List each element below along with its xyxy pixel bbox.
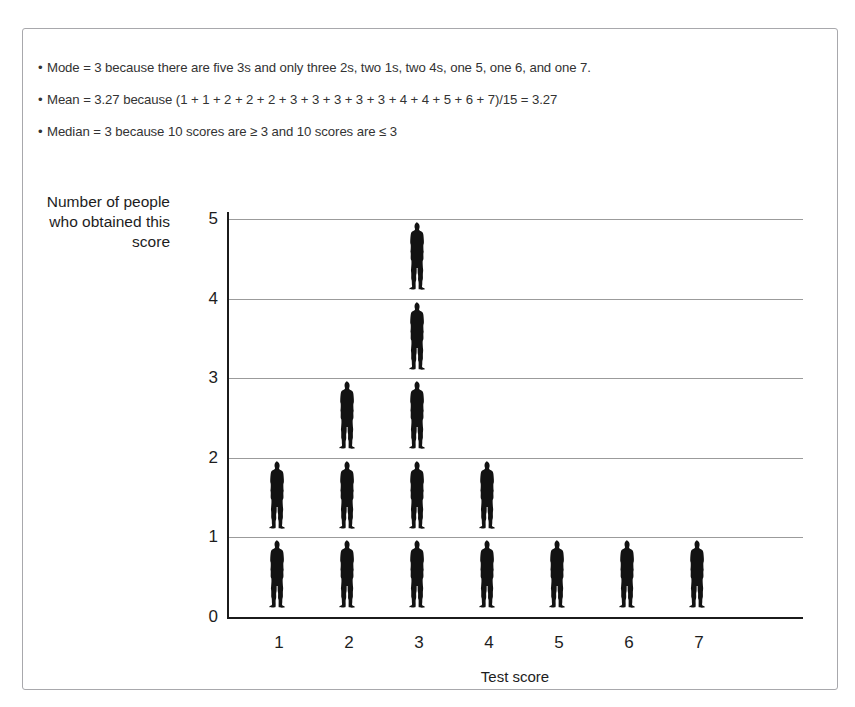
person-icon [477,460,501,534]
x-axis-spine [227,617,803,619]
x-tick-label-3: 3 [399,634,439,651]
person-icon [337,460,361,534]
x-tick-label-2: 2 [329,634,369,651]
person-icon [687,539,711,613]
person-icon [267,539,291,613]
person-icon [617,539,641,613]
gridline-3 [229,378,803,379]
x-tick-label-5: 5 [539,634,579,651]
y-tick-label-1: 1 [196,528,218,545]
y-axis-tick-labels: 012345 [190,0,218,707]
gridline-2 [229,458,803,459]
person-icon [267,460,291,534]
person-icon [547,539,571,613]
y-axis-title: Number of people who obtained this score [18,192,170,252]
person-icon [477,539,501,613]
y-tick-label-4: 4 [196,290,218,307]
pictogram-chart: Number of people who obtained this score… [0,0,855,707]
gridline-4 [229,299,803,300]
x-tick-label-7: 7 [679,634,719,651]
x-tick-label-4: 4 [469,634,509,651]
person-icon [337,380,361,454]
gridline-5 [229,219,803,220]
x-axis-title: Test score [227,668,803,685]
person-icon [337,539,361,613]
y-tick-label-3: 3 [196,369,218,386]
person-icon [407,301,431,375]
gridline-1 [229,537,803,538]
x-tick-label-6: 6 [609,634,649,651]
y-tick-label-2: 2 [196,449,218,466]
x-tick-label-1: 1 [259,634,299,651]
person-icon [407,539,431,613]
person-icon [407,380,431,454]
y-tick-label-5: 5 [196,210,218,227]
person-icon [407,460,431,534]
y-tick-label-0: 0 [196,608,218,625]
y-axis-spine [227,212,229,619]
person-icon [407,221,431,295]
